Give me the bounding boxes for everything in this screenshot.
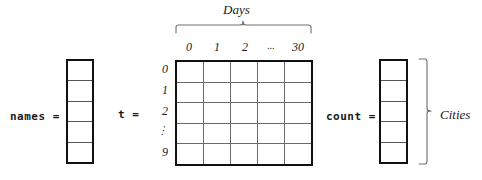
matrix-col-header-0: 0: [175, 40, 203, 55]
cities-brace: [418, 58, 432, 166]
matrix-cell: [204, 83, 231, 103]
matrix-cell: [285, 144, 311, 164]
matrix-row-header-0: 0: [146, 62, 168, 77]
count-vector-cell: [381, 143, 406, 162]
matrix-cell: [231, 103, 258, 123]
t-equals-label: t =: [118, 108, 139, 121]
matrix-col-header-30: 30: [284, 40, 312, 55]
matrix-row-header-ellipsis: ⋮: [146, 124, 168, 137]
matrix-cell: [204, 144, 231, 164]
matrix-cell: [231, 62, 258, 82]
matrix-cell: [177, 144, 204, 164]
matrix-row-header-1: 1: [146, 83, 168, 98]
table-row: [177, 124, 311, 145]
count-vector-cell: [381, 81, 406, 101]
matrix-row-header-9: 9: [146, 145, 168, 160]
matrix-cell: [258, 124, 285, 144]
matrix-col-header-ellipsis: ...: [257, 40, 285, 51]
days-brace-label: Days: [223, 2, 250, 18]
t-matrix: [175, 60, 313, 166]
table-row: [177, 103, 311, 124]
matrix-cell: [231, 124, 258, 144]
matrix-cell: [231, 83, 258, 103]
matrix-cell: [258, 144, 285, 164]
names-vector-cell: [68, 122, 92, 142]
names-vector-cell: [68, 81, 92, 101]
matrix-col-header-1: 1: [203, 40, 231, 55]
matrix-col-header-2: 2: [231, 40, 259, 55]
matrix-cell: [177, 124, 204, 144]
count-equals-label: count =: [326, 110, 376, 123]
matrix-cell: [258, 62, 285, 82]
table-row: [177, 83, 311, 104]
matrix-cell: [285, 83, 311, 103]
matrix-cell: [204, 124, 231, 144]
count-vector-cell: [381, 102, 406, 122]
matrix-cell: [285, 103, 311, 123]
matrix-cell: [285, 124, 311, 144]
figure-canvas: names = t = Days 0 1 2 ... 30 0 1 2 ⋮ 9: [0, 0, 482, 180]
names-vector-cell: [68, 61, 92, 81]
count-vector-cell: [381, 122, 406, 142]
count-vector: [379, 59, 408, 164]
matrix-cell: [258, 103, 285, 123]
days-brace: [175, 20, 313, 34]
matrix-cell: [285, 62, 311, 82]
matrix-row-header-2: 2: [146, 104, 168, 119]
matrix-cell: [204, 62, 231, 82]
table-row: [177, 144, 311, 164]
matrix-cell: [258, 83, 285, 103]
table-row: [177, 62, 311, 83]
names-equals-label: names =: [10, 110, 60, 123]
names-vector-cell: [68, 143, 92, 162]
matrix-cell: [177, 103, 204, 123]
matrix-cell: [204, 103, 231, 123]
names-vector: [66, 59, 94, 164]
matrix-cell: [231, 144, 258, 164]
count-vector-cell: [381, 61, 406, 81]
matrix-cell: [177, 62, 204, 82]
matrix-cell: [177, 83, 204, 103]
cities-brace-label: Cities: [440, 107, 470, 123]
names-vector-cell: [68, 102, 92, 122]
